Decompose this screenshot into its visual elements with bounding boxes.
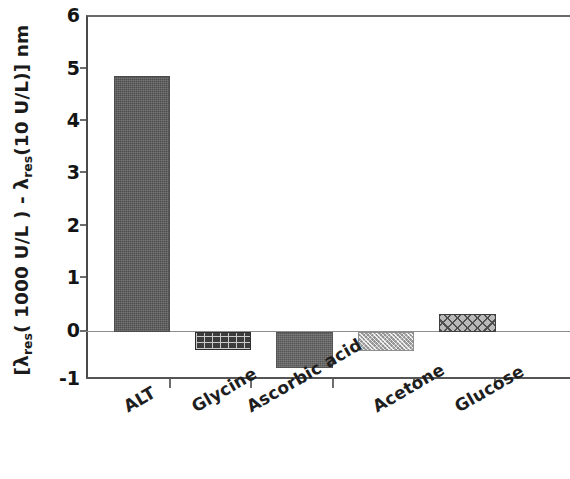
bar-alt — [114, 76, 170, 332]
y-axis-title-subscript-1: res — [20, 333, 35, 355]
y-axis-title-prefix: [λ — [11, 355, 32, 375]
y-tick-label-1: 1 — [50, 268, 80, 287]
y-tick-label-2: 2 — [50, 216, 80, 235]
y-tick-label-neg-1: -1 — [50, 369, 80, 388]
x-tick-mark-1 — [169, 379, 171, 388]
y-axis-title-text: [λres( 1000 U/L ) - λres(10 U/L)] nm — [11, 25, 35, 376]
y-tick-label-4: 4 — [50, 111, 80, 130]
y-tick-label-3: 3 — [50, 163, 80, 182]
y-axis-title-suffix: (10 U/L)] nm — [11, 25, 32, 156]
y-axis-tick-labels: 6 5 4 3 2 1 0 -1 — [48, 0, 80, 400]
y-tick-label-0: 0 — [50, 321, 80, 340]
x-tick-mark-3 — [332, 379, 334, 388]
y-axis-title-subscript-2: res — [20, 156, 35, 178]
bar-acetone — [358, 332, 414, 351]
x-category-label-alt: ALT — [120, 382, 159, 416]
y-tick-label-6: 6 — [50, 6, 80, 25]
bar-glucose — [439, 314, 496, 332]
y-tick-label-5: 5 — [50, 59, 80, 78]
y-axis-title: [λres( 1000 U/L ) - λres(10 U/L)] nm — [0, 0, 46, 400]
y-axis-title-middle: ( 1000 U/L ) - λ — [11, 178, 32, 333]
bar-chart-figure: [λres( 1000 U/L ) - λres(10 U/L)] nm 6 5… — [0, 0, 570, 479]
bar-glycine — [195, 332, 251, 350]
